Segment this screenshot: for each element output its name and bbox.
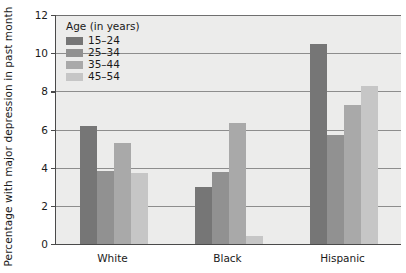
bar-chart: Percentage with major depression in past… (0, 0, 406, 273)
y-tick-mark-10 (51, 53, 56, 54)
y-tick-label-10: 10 (35, 47, 48, 59)
legend-item-label: 15–24 (88, 35, 120, 46)
bar-hispanic-35-44 (344, 105, 361, 244)
bar-white-35-44 (114, 143, 131, 244)
x-axis-label-black: Black (213, 252, 241, 264)
legend-swatch-icon (66, 73, 83, 81)
y-tick-mark-2 (51, 206, 56, 207)
legend-item-15-24: 15–24 (66, 35, 140, 46)
bar-white-15-24 (80, 126, 97, 244)
legend-swatch-icon (66, 49, 83, 57)
bar-black-45-54 (246, 236, 263, 244)
bar-black-15-24 (195, 187, 212, 244)
legend-item-label: 35–44 (88, 59, 120, 70)
y-tick-mark-6 (51, 130, 56, 131)
gridline-8 (56, 91, 401, 92)
legend: Age (in years) 15–2425–3435–4445–54 (66, 20, 140, 83)
y-tick-label-12: 12 (35, 9, 48, 21)
gridline-12 (56, 15, 401, 16)
x-axis-label-white: White (97, 252, 128, 264)
legend-item-35-44: 35–44 (66, 59, 140, 70)
y-tick-mark-8 (51, 91, 56, 92)
bar-hispanic-15-24 (310, 44, 327, 244)
legend-title: Age (in years) (66, 20, 140, 32)
y-tick-label-4: 4 (41, 162, 48, 174)
y-tick-mark-4 (51, 168, 56, 169)
bar-hispanic-45-54 (361, 86, 378, 244)
y-tick-label-2: 2 (41, 200, 48, 212)
legend-item-25-34: 25–34 (66, 47, 140, 58)
y-tick-mark-0 (51, 244, 56, 245)
y-tick-label-8: 8 (41, 85, 48, 97)
x-axis-label-hispanic: Hispanic (320, 252, 365, 264)
y-tick-label-0: 0 (41, 238, 48, 250)
legend-item-label: 25–34 (88, 47, 120, 58)
bar-black-25-34 (212, 172, 229, 244)
y-tick-mark-12 (51, 15, 56, 16)
bar-black-35-44 (229, 123, 246, 244)
legend-entries: 15–2425–3435–4445–54 (66, 35, 140, 82)
bar-white-25-34 (97, 171, 114, 244)
legend-swatch-icon (66, 37, 83, 45)
bar-white-45-54 (131, 173, 148, 244)
legend-item-label: 45–54 (88, 71, 120, 82)
bar-hispanic-25-34 (327, 135, 344, 244)
y-tick-label-6: 6 (41, 124, 48, 136)
legend-item-45-54: 45–54 (66, 71, 140, 82)
y-axis-title: Percentage with major depression in past… (0, 0, 16, 273)
legend-swatch-icon (66, 61, 83, 69)
